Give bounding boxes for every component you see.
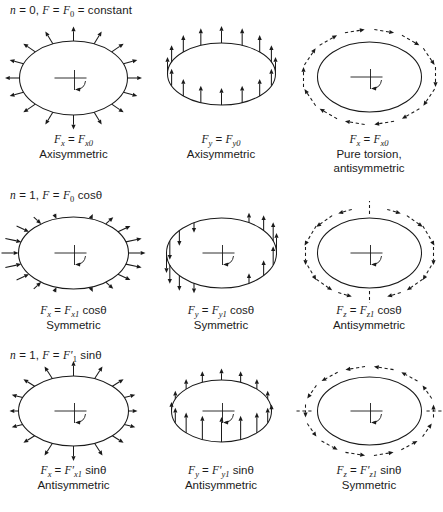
radial-sin-load-figure	[0, 361, 147, 463]
harmonic-row-n1-sin: n = 1, F = F′1 sinθ Fx = F′x1 sinθ Antis…	[0, 345, 443, 492]
tangential-sin-load-figure	[296, 361, 443, 463]
cell-n1cos-radial: Fx = Fx1 cosθ Symmetric	[0, 201, 147, 332]
symmetry-label: Pure torsion, antisymmetric	[334, 147, 405, 176]
pure-torsion-load-figure	[296, 16, 443, 132]
cell-n1sin-tangential: Fz = F′z1 sinθ Symmetric	[295, 361, 443, 492]
cell-n1sin-radial: Fx = F′x1 sinθ Antisymmetric	[0, 361, 147, 492]
row-header-n0: n = 0, F = F0 = constant	[0, 0, 443, 16]
symmetry-label: Symmetric	[194, 318, 248, 332]
row-header-n1-sin: n = 1, F = F′1 sinθ	[0, 345, 443, 361]
load-formula: Fy = Fy1 cosθ	[188, 303, 254, 318]
cell-n1sin-axial: Fy = F′y1 sinθ Antisymmetric	[147, 361, 295, 492]
load-formula: Fy = F′y1 sinθ	[188, 463, 254, 478]
load-formula: Fx = Fx0	[350, 132, 389, 147]
symmetry-label: Axisymmetric	[39, 147, 107, 161]
load-formula: Fz = F′z1 sinθ	[337, 463, 402, 478]
tangential-cos-load-figure	[296, 201, 443, 303]
symmetry-label: Symmetric	[46, 318, 100, 332]
radial-uniform-load-figure	[0, 16, 147, 132]
symmetry-label: Axisymmetric	[187, 147, 255, 161]
load-formula: Fx = Fx0	[54, 132, 93, 147]
diagram-page: n = 0, F = F0 = constant Fx = Fx0 Axisym…	[0, 0, 443, 512]
harmonic-row-n0: n = 0, F = F0 = constant Fx = Fx0 Axisym…	[0, 0, 443, 176]
symmetry-label: Antisymmetric	[185, 478, 257, 492]
cell-n0-axial: Fy = Fy0 Axisymmetric	[147, 16, 295, 176]
harmonic-row-n1-cos: n = 1, F = F0 cosθ Fx = Fx1 cosθ Symmetr…	[0, 185, 443, 332]
symmetry-label: Antisymmetric	[333, 318, 405, 332]
symmetry-label: Antisymmetric	[37, 478, 109, 492]
radial-cos-load-figure	[0, 201, 147, 303]
load-formula: Fx = F′x1 sinθ	[41, 463, 107, 478]
axial-cos-load-figure	[148, 201, 295, 303]
axial-uniform-load-figure	[148, 16, 295, 132]
symmetry-label: Symmetric	[342, 478, 396, 492]
load-formula: Fz = Fz1 cosθ	[336, 303, 402, 318]
cell-n1cos-axial: Fy = Fy1 cosθ Symmetric	[147, 201, 295, 332]
load-formula: Fy = Fy0	[202, 132, 241, 147]
cell-n0-torsion: Fx = Fx0 Pure torsion, antisymmetric	[295, 16, 443, 176]
row-header-n1-cos: n = 1, F = F0 cosθ	[0, 185, 443, 201]
load-formula: Fx = Fx1 cosθ	[40, 303, 106, 318]
cell-n0-radial: Fx = Fx0 Axisymmetric	[0, 16, 147, 176]
axial-sin-load-figure	[148, 361, 295, 463]
cell-n1cos-tangential: Fz = Fz1 cosθ Antisymmetric	[295, 201, 443, 332]
